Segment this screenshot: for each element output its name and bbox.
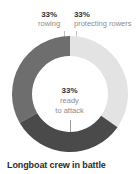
callout-rowing-percent: 33% [38, 11, 60, 19]
center-line-1: ready [0, 96, 139, 105]
callout-rowing-label: rowing [38, 20, 60, 28]
callout-protecting-percent: 33% [74, 11, 132, 19]
center-percent: 33% [0, 86, 139, 96]
center-label-ready-to-attack: 33% ready to attack [0, 86, 139, 115]
callout-protecting-label: protecting rowers [74, 20, 132, 28]
longboat-crew-infographic: 33% rowing 33% protecting rowers 33% rea… [0, 0, 139, 174]
callout-protecting-rowers: 33% protecting rowers [74, 11, 132, 28]
chart-caption: Longboat crew in battle [7, 160, 106, 170]
center-line-2: to attack [0, 106, 139, 115]
donut-slice-ready-to-attack [20, 113, 118, 152]
callout-rowing: 33% rowing [38, 11, 60, 28]
